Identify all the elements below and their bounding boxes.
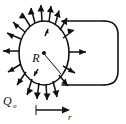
field-arrow-upleft-2: [7, 33, 21, 39]
field-arrow-downleft-1: [8, 64, 21, 72]
radius-leader-line: [45, 55, 61, 74]
field-arrow-up-3: [37, 5, 44, 21]
field-arrow-right: [69, 49, 86, 55]
cylinder-front-face: [19, 21, 69, 85]
center-point-dot: [42, 51, 46, 55]
radial-distance-measure: [36, 105, 70, 115]
field-arrow-down-4: [52, 81, 59, 97]
radius-label: R: [31, 51, 40, 65]
field-arrow-inner-top: [45, 29, 49, 36]
cylinder-right-cap: [104, 21, 118, 85]
field-arrow-up-1: [19, 13, 30, 26]
field-arrow-up-4: [47, 6, 54, 22]
field-arrow-down-3: [44, 84, 51, 100]
radius-leader: [45, 55, 61, 74]
field-arrow-down-2: [34, 83, 41, 99]
physics-figure: R Q o l r: [0, 0, 126, 124]
field-arrow-left: [3, 48, 19, 54]
field-arrow-inner-bottom: [34, 69, 38, 76]
radial-distance-label: r: [68, 112, 72, 122]
diagram-canvas: R Q o l r: [0, 0, 126, 124]
field-arrow-downleft-2: [17, 72, 26, 85]
field-arrow-up-2: [28, 8, 35, 23]
charge-label: Q: [3, 94, 12, 108]
field-arrow-up-6: [60, 18, 67, 30]
field-arrow-upleft-1: [13, 22, 25, 32]
charge-subscript-label: o: [13, 102, 17, 110]
